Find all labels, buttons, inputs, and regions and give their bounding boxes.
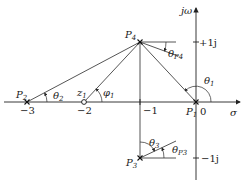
tick-label-plus-1j: +1j [199,37,217,48]
arc-phi1 [96,89,102,102]
label-phi1: φ1 [103,87,114,100]
arc-thetaP4 [165,42,167,51]
label-p3: P3 [125,157,138,170]
arc-theta2 [45,93,47,102]
label-thetaP4: θP4 [168,48,183,61]
tick-label-minus-3: −3 [20,105,35,116]
label-theta2: θ2 [53,90,64,103]
arc-thetaP3 [162,148,164,158]
label-p1: P1 [185,106,197,119]
label-z1: z1 [76,87,87,100]
label-theta3: θ3 [149,137,160,150]
tick-label-minus-1: −1 [143,105,158,116]
real-axis-label: σ [230,107,238,118]
zero-z1-marker [82,100,87,105]
tick-label-minus-2: −2 [77,105,92,116]
label-p2: P2 [15,89,28,102]
tick-label-minus-1j: −1j [201,153,219,164]
label-p4: P4 [124,29,136,42]
origin-label: 0 [200,106,206,117]
pole-zero-diagram: jω σ 0 −3 −2 −1 +1j −1j P2 z1 P4 P3 P1 θ… [0,0,252,196]
label-thetaP3: θP3 [172,144,188,157]
imag-axis-label: jω [179,5,192,16]
label-theta1: θ1 [204,75,215,88]
